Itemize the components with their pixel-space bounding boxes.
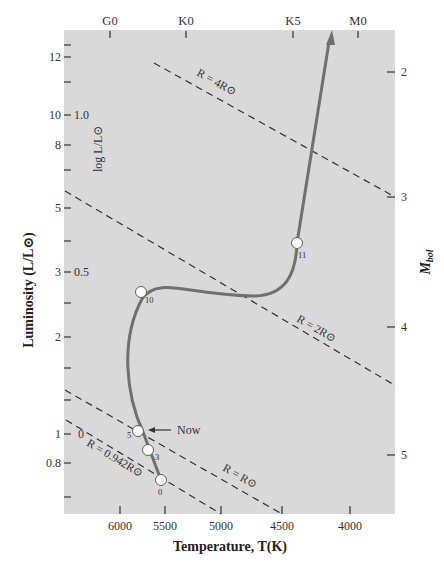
- tick-label-1: 1: [55, 427, 61, 441]
- tick-label-k0: K0: [178, 14, 193, 28]
- now-label: Now: [177, 423, 201, 437]
- plot-area: [64, 30, 395, 514]
- x-axis-title: Temperature, T(K): [173, 539, 287, 555]
- mbol-tick-2: 2: [401, 65, 407, 79]
- point-label-0: 0: [158, 487, 162, 497]
- hr-diagram: G0 K0 K5 M0 12 10 8 5 3 2 1 0.8 1.0 0.5 …: [0, 0, 444, 567]
- point-age-0: [156, 475, 167, 486]
- mbol-tick-5: 5: [401, 448, 407, 462]
- log-tick-label-0-5: 0.5: [74, 265, 89, 279]
- tick-label-2: 2: [55, 330, 61, 344]
- point-age-11: [292, 238, 303, 249]
- tick-label-0-8: 0.8: [46, 456, 61, 470]
- tick-label-m0: M0: [349, 14, 366, 28]
- tick-label-3: 3: [55, 265, 61, 279]
- point-label-5: 5: [127, 430, 131, 440]
- tick-label-8: 8: [55, 138, 61, 152]
- point-label-3: 3: [155, 452, 159, 462]
- mbol-tick-3: 3: [401, 190, 407, 204]
- tick-label-5500: 5500: [153, 519, 177, 533]
- tick-label-5000: 5000: [209, 519, 233, 533]
- mbol-tick-4: 4: [401, 320, 407, 334]
- tick-label-6000: 6000: [108, 519, 132, 533]
- point-age-3: [143, 445, 154, 456]
- log-tick-label-1-0: 1.0: [74, 108, 89, 122]
- tick-label-4000: 4000: [338, 519, 362, 533]
- log-axis-label: log L/L⊙: [91, 126, 105, 172]
- point-age-5: [133, 426, 144, 437]
- tick-label-g0: G0: [102, 14, 117, 28]
- tick-label-5: 5: [55, 201, 61, 215]
- tick-label-10: 10: [49, 108, 61, 122]
- right-axis-title: Mbol: [418, 249, 435, 275]
- point-label-11: 11: [298, 250, 306, 260]
- tick-label-12: 12: [49, 50, 61, 64]
- tick-label-4500: 4500: [270, 519, 294, 533]
- point-label-10: 10: [145, 295, 154, 305]
- tick-label-k5: K5: [285, 14, 300, 28]
- y-axis-title: Luminosity (L/L⊙): [21, 232, 37, 348]
